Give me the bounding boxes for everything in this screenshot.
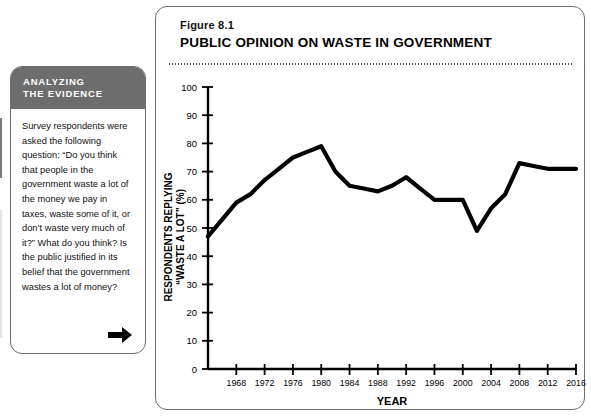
svg-text:10: 10 [186,335,197,346]
svg-text:70: 70 [186,166,197,177]
svg-text:1988: 1988 [368,378,388,388]
x-axis-ticks: 1968197219761980198419881992199620002004… [227,364,586,388]
y-axis-title-line-2: “WASTE A LOT” (%) [175,189,186,285]
svg-text:0: 0 [192,364,197,375]
svg-text:50: 50 [186,223,197,234]
analyzing-the-evidence-panel: ANALYZING THE EVIDENCE Survey respondent… [10,66,146,354]
chart-plot-area: 0102030405060708090100 19681972197619801… [156,69,586,409]
svg-text:2000: 2000 [453,378,473,388]
figure-panel: Figure 8.1 PUBLIC OPINION ON WASTE IN GO… [155,6,585,410]
svg-text:1976: 1976 [283,378,303,388]
figure-title: PUBLIC OPINION ON WASTE IN GOVERNMENT [180,35,492,50]
sidebar-header: ANALYZING THE EVIDENCE [11,67,145,109]
svg-text:2012: 2012 [538,378,558,388]
svg-text:1980: 1980 [311,378,331,388]
svg-text:100: 100 [181,82,197,93]
svg-text:20: 20 [186,307,197,318]
svg-text:60: 60 [186,194,197,205]
svg-text:90: 90 [186,110,197,121]
figure-number: Figure 8.1 [180,19,234,31]
page-edge-line-bottom [0,210,2,338]
svg-text:30: 30 [186,279,197,290]
svg-text:2008: 2008 [510,378,530,388]
x-axis-title: YEAR [377,395,408,407]
title-divider [168,63,572,65]
svg-text:40: 40 [186,251,197,262]
svg-text:2016: 2016 [566,378,586,388]
sidebar-header-line-2: THE EVIDENCE [23,88,145,100]
line-chart: 0102030405060708090100 19681972197619801… [156,69,586,409]
sidebar-header-line-1: ANALYZING [23,76,145,88]
y-axis-title-line-1: RESPONDENTS REPLYING [163,172,174,301]
sidebar-body-text: Survey respondents were asked the follow… [11,109,145,294]
svg-text:1996: 1996 [425,378,445,388]
svg-text:1992: 1992 [396,378,416,388]
svg-text:1968: 1968 [227,378,247,388]
svg-text:80: 80 [186,138,197,149]
page-edge-line-top [0,118,2,178]
arrow-right-icon[interactable] [107,325,133,345]
data-series-line [208,146,576,236]
svg-text:1972: 1972 [255,378,275,388]
svg-text:2004: 2004 [481,378,501,388]
svg-text:1984: 1984 [340,378,360,388]
